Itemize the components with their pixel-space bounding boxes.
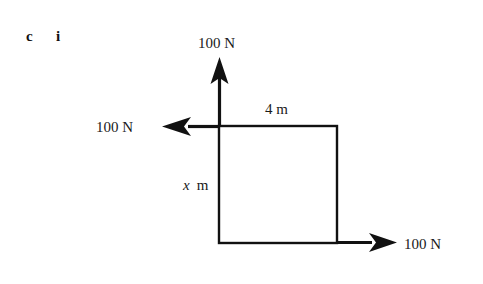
left-dimension-unit: m: [197, 177, 209, 193]
force-left-label: 100 N: [96, 119, 133, 135]
force-left-arrow: [162, 117, 219, 136]
rectangle-shape: [219, 126, 337, 243]
force-right-arrowhead: [369, 233, 397, 252]
top-dimension-label: 4 m: [265, 101, 288, 117]
force-diagram: 100 N 100 N 100 N 4 m x m: [0, 0, 483, 284]
force-right-label: 100 N: [404, 236, 441, 252]
left-dimension-label: x m: [182, 176, 209, 193]
force-up-arrow: [211, 57, 229, 126]
figure-canvas: c i 100 N 100 N 100 N 4 m x m: [0, 0, 483, 284]
force-left-arrowhead: [162, 117, 191, 136]
force-up-label: 100 N: [198, 35, 235, 51]
force-right-arrow: [337, 233, 397, 252]
left-dimension-variable: x: [182, 177, 190, 193]
